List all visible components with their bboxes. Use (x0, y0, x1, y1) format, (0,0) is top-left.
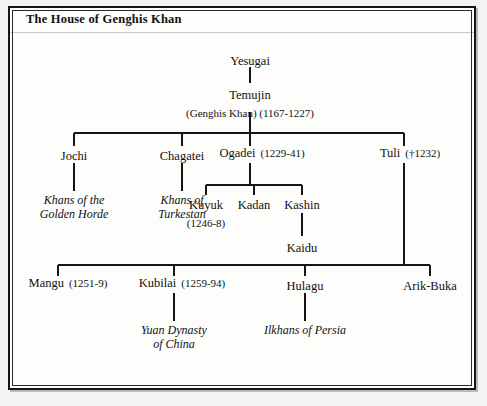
node-hulagu[interactable]: Hulagu (287, 276, 324, 294)
node-ilkhans-of-persia[interactable]: Ilkhans of Persia (264, 323, 346, 337)
node-kaidu-name: Kaidu (287, 241, 318, 255)
node-mangu-name: Mangu (29, 276, 64, 290)
node-tuli[interactable]: Tuli (†1232) (380, 146, 440, 160)
node-kubilai-dates: (1259-94) (181, 277, 225, 289)
node-kubilai[interactable]: Kubilai (1259-94) (139, 276, 226, 290)
figure-root: The House of Genghis Khan (0, 0, 487, 406)
node-kadan[interactable]: Kadan (238, 195, 271, 213)
node-kuyuk-name: Kuyuk (189, 198, 223, 212)
genealogy-tree: Yesugai Temujin (Genghis Khan) (1167-122… (10, 33, 474, 388)
node-kaidu[interactable]: Kaidu (287, 238, 318, 256)
node-mangu-dates: (1251-9) (69, 277, 108, 289)
node-kashin-name: Kashin (284, 198, 319, 212)
node-jochi-name: Jochi (61, 149, 87, 163)
node-golden-horde-line2: Golden Horde (40, 207, 109, 221)
node-kashin[interactable]: Kashin (284, 195, 319, 213)
node-temujin[interactable]: Temujin (Genghis Khan) (1167-1227) (186, 85, 314, 121)
node-yesugai-name: Yesugai (230, 54, 270, 68)
node-khans-of-the-golden-horde[interactable]: Khans of the Golden Horde (40, 193, 109, 221)
node-chagatei-name: Chagatei (160, 149, 204, 163)
node-yuan-line1: Yuan Dynasty (141, 323, 207, 337)
node-ilkhans-line1: Ilkhans of Persia (264, 323, 346, 337)
node-kuyuk[interactable]: Kuyuk (1246-8) (187, 195, 226, 231)
node-ogadei[interactable]: Ogadei (1229-41) (219, 146, 304, 160)
node-hulagu-name: Hulagu (287, 279, 324, 293)
node-temujin-name: Temujin (229, 88, 270, 102)
node-ogadei-dates: (1229-41) (261, 147, 305, 159)
node-arik-buka-name: Arik-Buka (403, 279, 456, 293)
node-yuan-dynasty-of-china[interactable]: Yuan Dynasty of China (141, 323, 207, 351)
node-chagatei[interactable]: Chagatei (160, 146, 204, 164)
node-kuyuk-dates: (1246-8) (187, 217, 226, 229)
node-tuli-name: Tuli (380, 146, 400, 160)
figure-title-bar: The House of Genghis Khan (10, 8, 474, 33)
node-yesugai[interactable]: Yesugai (230, 51, 270, 69)
node-mangu[interactable]: Mangu (1251-9) (29, 276, 108, 290)
page-title: The House of Genghis Khan (26, 12, 182, 27)
node-golden-horde-line1: Khans of the (40, 193, 109, 207)
node-jochi[interactable]: Jochi (61, 146, 87, 164)
node-yuan-line2: of China (141, 337, 207, 351)
node-kadan-name: Kadan (238, 198, 271, 212)
node-kubilai-name: Kubilai (139, 276, 177, 290)
node-arik-buka[interactable]: Arik-Buka (403, 276, 456, 294)
node-ogadei-name: Ogadei (219, 146, 255, 160)
figure-frame: The House of Genghis Khan (8, 6, 476, 390)
node-temujin-dates: (Genghis Khan) (1167-1227) (186, 107, 314, 119)
node-tuli-dates: (†1232) (405, 147, 440, 159)
